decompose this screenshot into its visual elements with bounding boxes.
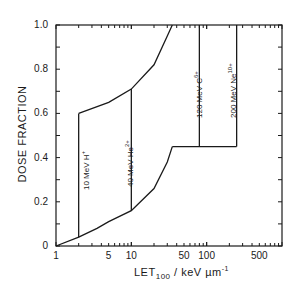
x-tick-label: 500 <box>244 250 274 261</box>
y-axis-label: DOSE FRACTION <box>16 64 28 204</box>
x-tick-label: 100 <box>192 250 222 261</box>
series-line <box>56 147 172 246</box>
label-200mev-ne: 200 MeV Ne10+ <box>227 63 238 118</box>
plot-frame <box>56 25 282 246</box>
x-tick-label: 10 <box>116 250 146 261</box>
series-line <box>79 25 173 113</box>
label-120mev-c: 120 MeV C6+ <box>193 71 204 118</box>
y-tick-label: 1.0 <box>24 19 48 30</box>
label-40mev-he: 40 MeV He2+ <box>124 140 135 187</box>
x-tick-label: 1 <box>41 250 71 261</box>
label-10mev-h: 10 MeV H+ <box>80 151 91 190</box>
x-axis-label: LET100 / keV µm-1 <box>134 265 229 281</box>
